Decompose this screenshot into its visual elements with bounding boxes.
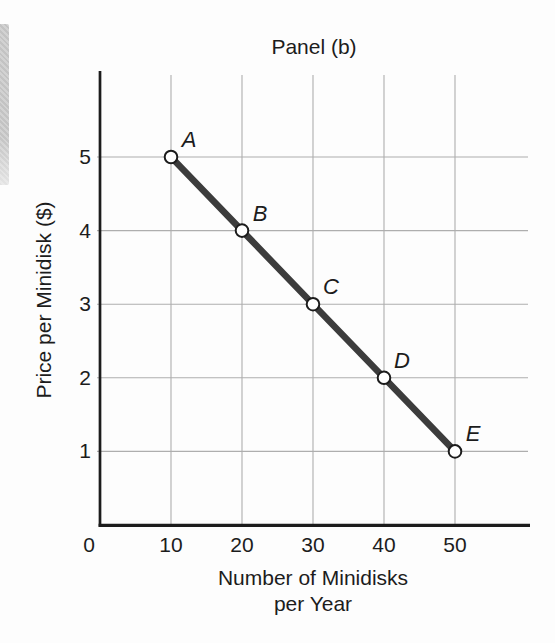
data-point-E: [449, 445, 462, 458]
data-point-A: [165, 151, 178, 164]
x-tick-label-40: 40: [372, 533, 395, 556]
x-tick-label-10: 10: [159, 533, 182, 556]
page-edge-artifact: [0, 24, 9, 185]
chart: Panel (b) ABCDE1234501020304050Number of…: [0, 0, 555, 643]
data-point-B: [236, 224, 249, 237]
x-tick-label-50: 50: [443, 533, 466, 556]
chart-title: Panel (b): [271, 35, 356, 58]
y-tick-label-3: 3: [79, 292, 91, 315]
point-label-E: E: [466, 421, 481, 446]
x-tick-label-30: 30: [301, 533, 324, 556]
x-axis-title-line-1: Number of Minidisks: [218, 566, 408, 589]
y-axis-title: Price per Minidisk ($): [32, 201, 55, 398]
figure-panel-b: Panel (b) ABCDE1234501020304050Number of…: [0, 0, 555, 643]
point-label-D: D: [394, 348, 410, 373]
y-tick-label-5: 5: [79, 145, 91, 168]
x-axis-title-line-2: per Year: [274, 592, 352, 615]
data-point-C: [307, 298, 320, 311]
point-label-B: B: [253, 201, 268, 226]
y-tick-label-2: 2: [79, 366, 91, 389]
x-tick-label-0: 0: [83, 533, 95, 556]
data-point-D: [378, 372, 391, 385]
y-tick-label-1: 1: [79, 439, 91, 462]
chart-plot: ABCDE1234501020304050Number of Minidisks…: [32, 71, 530, 615]
y-tick-label-4: 4: [79, 219, 91, 242]
point-label-A: A: [180, 127, 197, 152]
x-tick-label-20: 20: [230, 533, 253, 556]
point-label-C: C: [323, 274, 339, 299]
